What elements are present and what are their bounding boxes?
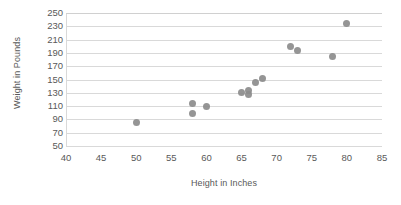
y-tick-label: 230 (30, 21, 63, 31)
y-tick-label: 130 (30, 88, 63, 98)
x-tick-label: 45 (89, 152, 113, 164)
gridline (66, 40, 382, 41)
data-point (189, 110, 196, 117)
data-point (252, 79, 259, 86)
x-axis-title: Height in Inches (66, 178, 382, 188)
gridline (66, 80, 382, 81)
gridline (66, 106, 382, 107)
data-point (329, 53, 336, 60)
gridline (66, 13, 382, 14)
x-tick-label: 55 (159, 152, 183, 164)
x-tick-label: 75 (300, 152, 324, 164)
y-tick-label: 110 (30, 101, 63, 111)
y-tick-label: 250 (30, 8, 63, 18)
x-tick-label: 65 (230, 152, 254, 164)
x-tick-label: 85 (370, 152, 394, 164)
x-axis-tick-labels: 40455055606570758085 (0, 152, 401, 166)
scatter-chart: 507090110130150170190210230250 404550556… (0, 0, 401, 205)
x-tick-label: 50 (124, 152, 148, 164)
x-tick-label: 60 (194, 152, 218, 164)
x-tick-label: 70 (265, 152, 289, 164)
y-tick-label: 70 (30, 128, 63, 138)
x-tick-label: 80 (335, 152, 359, 164)
data-point (133, 119, 140, 126)
gridline (66, 26, 382, 27)
y-tick-label: 150 (30, 75, 63, 85)
data-point (287, 43, 294, 50)
y-axis-title: Weight in Pounds (6, 0, 28, 146)
y-tick-label: 50 (30, 141, 63, 151)
plot-area (66, 13, 382, 146)
data-point (189, 100, 196, 107)
y-tick-label: 90 (30, 114, 63, 124)
gridline (66, 146, 382, 147)
x-tick-label: 40 (54, 152, 78, 164)
gridline (66, 119, 382, 120)
data-point (203, 103, 210, 110)
data-point (245, 91, 252, 98)
gridline (66, 93, 382, 94)
y-tick-label: 210 (30, 35, 63, 45)
gridline (66, 66, 382, 67)
gridline (66, 133, 382, 134)
data-point (238, 89, 245, 96)
y-tick-label: 170 (30, 61, 63, 71)
y-axis-tick-labels: 507090110130150170190210230250 (30, 0, 63, 205)
data-point (259, 75, 266, 82)
y-tick-label: 190 (30, 48, 63, 58)
